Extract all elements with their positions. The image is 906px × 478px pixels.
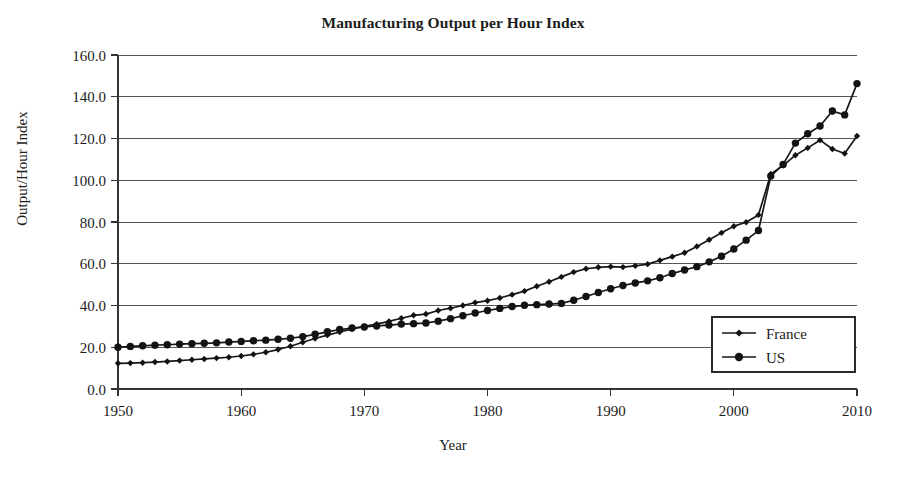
y-tick-label: 20.0 (80, 340, 106, 356)
data-point-us (742, 236, 749, 243)
data-point-france (534, 283, 540, 289)
data-point-us (804, 130, 811, 137)
data-point-us (632, 279, 639, 286)
x-tick-label: 2010 (842, 403, 872, 419)
data-point-france (139, 360, 145, 366)
data-point-us (250, 337, 257, 344)
data-point-us (410, 320, 417, 327)
data-point-france (521, 288, 527, 294)
data-point-us (348, 324, 355, 331)
y-tick-label: 40.0 (80, 298, 106, 314)
chart-legend: FranceUS (712, 317, 855, 372)
data-point-us (361, 323, 368, 330)
data-point-us (151, 341, 158, 348)
x-tick-label: 1970 (349, 403, 379, 419)
y-tick-label: 60.0 (80, 256, 106, 272)
data-point-us (508, 303, 515, 310)
chart-figure: Manufacturing Output per Hour Index Outp… (0, 0, 906, 478)
x-tick-marks (118, 389, 857, 396)
data-point-us (127, 343, 134, 350)
data-point-us (779, 161, 786, 168)
data-point-france (423, 311, 429, 317)
data-point-france (706, 237, 712, 243)
data-point-france (669, 253, 675, 259)
plot-area: 160.0140.0120.0100.080.060.040.020.00.0 … (0, 0, 906, 478)
data-point-france (287, 343, 293, 349)
data-point-france (718, 230, 724, 236)
data-point-us (225, 338, 232, 345)
y-tick-label: 100.0 (72, 173, 106, 189)
data-point-france (497, 295, 503, 301)
data-point-france (263, 349, 269, 355)
data-point-france (558, 274, 564, 280)
data-point-us (496, 305, 503, 312)
data-point-us (558, 300, 565, 307)
data-point-france (644, 261, 650, 267)
data-point-france (238, 353, 244, 359)
data-point-us (324, 328, 331, 335)
y-tick-label: 120.0 (72, 131, 106, 147)
data-point-us (792, 139, 799, 146)
data-point-us (656, 274, 663, 281)
data-point-france (484, 298, 490, 304)
data-point-france (152, 359, 158, 365)
y-tick-marks (111, 55, 118, 389)
y-tick-label: 0.0 (87, 382, 106, 398)
data-point-us (447, 315, 454, 322)
data-point-france (115, 360, 121, 366)
data-point-france (164, 358, 170, 364)
data-point-us (767, 172, 774, 179)
data-point-us (545, 300, 552, 307)
data-point-france (213, 355, 219, 361)
data-point-france (583, 266, 589, 272)
data-point-us (521, 302, 528, 309)
data-point-us (471, 309, 478, 316)
y-tick-label: 160.0 (72, 48, 106, 64)
x-tick-label: 1980 (473, 403, 503, 419)
data-point-us (459, 312, 466, 319)
data-point-france (127, 360, 133, 366)
data-point-us (669, 270, 676, 277)
data-point-us (287, 335, 294, 342)
data-point-us (385, 321, 392, 328)
data-point-us (816, 122, 823, 129)
y-tick-label: 140.0 (72, 89, 106, 105)
data-point-us (484, 307, 491, 314)
x-tick-label: 1960 (226, 403, 256, 419)
data-point-france (189, 357, 195, 363)
data-point-france (694, 243, 700, 249)
data-point-france (681, 249, 687, 255)
data-point-us (829, 107, 836, 114)
data-point-france (226, 354, 232, 360)
x-tick-label: 1950 (103, 403, 133, 419)
data-point-us (373, 322, 380, 329)
y-tick-label: 80.0 (80, 215, 106, 231)
data-point-us (201, 340, 208, 347)
data-point-france (435, 307, 441, 313)
data-point-france (607, 263, 613, 269)
data-point-france (571, 269, 577, 275)
data-point-us (619, 282, 626, 289)
data-point-us (570, 297, 577, 304)
data-point-france (201, 356, 207, 362)
data-point-us (274, 336, 281, 343)
x-tick-labels: 1950196019701980199020002010 (103, 403, 872, 419)
data-point-us (398, 320, 405, 327)
data-point-us (262, 336, 269, 343)
data-point-us (681, 266, 688, 273)
data-point-france (250, 351, 256, 357)
data-point-us (237, 338, 244, 345)
legend-label-us: US (766, 350, 785, 366)
data-point-us (853, 80, 860, 87)
data-point-us (164, 341, 171, 348)
data-point-us (533, 301, 540, 308)
data-point-us (422, 319, 429, 326)
data-point-us (841, 111, 848, 118)
data-point-us (336, 326, 343, 333)
data-point-us (730, 245, 737, 252)
data-point-us (755, 227, 762, 234)
y-tick-labels: 160.0140.0120.0100.080.060.040.020.00.0 (72, 48, 106, 398)
data-point-france (472, 299, 478, 305)
data-point-us (213, 339, 220, 346)
data-point-us (139, 342, 146, 349)
